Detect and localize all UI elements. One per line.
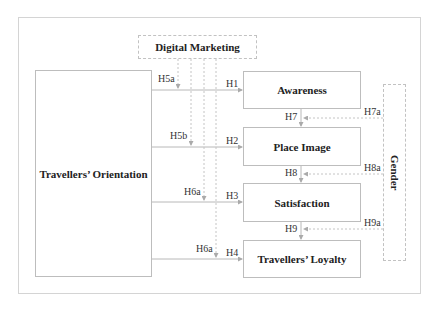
h7a-label: H7a: [364, 106, 381, 117]
h6a-label-2: H6a: [196, 243, 213, 254]
satisfaction-node: Satisfaction: [243, 183, 361, 222]
digital-marketing-node: Digital Marketing: [138, 35, 257, 59]
h2-label: H2: [226, 135, 238, 146]
place-image-label: Place Image: [273, 141, 330, 153]
satisfaction-label: Satisfaction: [275, 197, 330, 209]
awareness-label: Awareness: [277, 84, 327, 96]
awareness-node: Awareness: [243, 71, 361, 109]
h9-label: H9: [285, 223, 297, 234]
h5b-label: H5b: [170, 130, 187, 141]
h7-label: H7: [285, 111, 297, 122]
gender-label: Gender: [389, 155, 401, 190]
h8-label: H8: [285, 167, 297, 178]
travellers-orientation-label: Travellers’ Orientation: [39, 168, 147, 180]
place-image-node: Place Image: [243, 127, 361, 166]
h9a-label: H9a: [364, 217, 381, 228]
h3-label: H3: [226, 190, 238, 201]
h1-label: H1: [226, 78, 238, 89]
travellers-loyalty-node: Travellers’ Loyalty: [243, 240, 361, 278]
travellers-loyalty-label: Travellers’ Loyalty: [257, 253, 346, 265]
travellers-orientation-node: Travellers’ Orientation: [35, 70, 152, 277]
gender-node: Gender: [383, 84, 406, 261]
digital-marketing-label: Digital Marketing: [155, 41, 240, 53]
h5a-label: H5a: [158, 73, 175, 84]
h4-label: H4: [226, 247, 238, 258]
h8a-label: H8a: [364, 162, 381, 173]
h6a-label-1: H6a: [184, 186, 201, 197]
